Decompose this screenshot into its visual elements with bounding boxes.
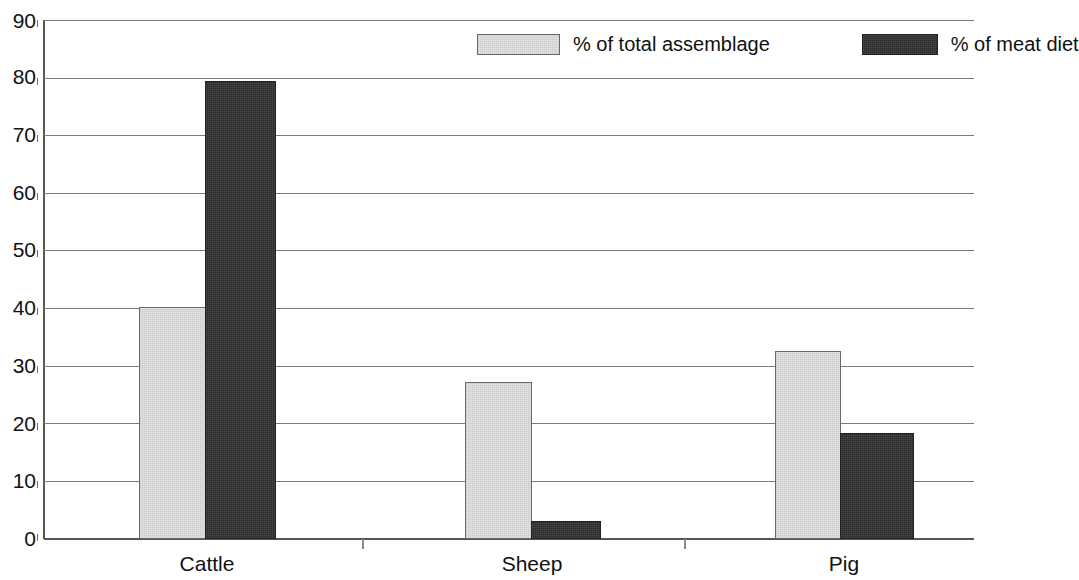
- bar-pig-total-assemblage: [775, 351, 841, 539]
- y-axis-tick-label: 40: [2, 297, 36, 318]
- dark-swatch-icon: [862, 34, 938, 55]
- light-swatch-icon: [477, 34, 560, 55]
- x-axis-separator-tick: [362, 539, 364, 549]
- y-tick-40: [37, 308, 38, 315]
- y-tick-20: [37, 423, 38, 430]
- bar-sheep-meat-diet: [531, 521, 601, 539]
- gridline-90: [44, 20, 974, 21]
- y-axis-labels: 90 80 70 60 50 40 30 20 10 0: [0, 0, 36, 580]
- y-axis-tick-label: 30: [2, 355, 36, 376]
- x-axis-category-label-sheep: Sheep: [472, 553, 592, 575]
- bar-sheep-total-assemblage: [465, 382, 532, 539]
- legend-label-meat-diet: % of meat diet: [951, 34, 1079, 55]
- y-axis-tick-label: 90: [2, 10, 36, 31]
- x-axis-category-label-pig: Pig: [784, 553, 904, 575]
- y-axis-tick-label: 10: [2, 470, 36, 491]
- gridline-80: [44, 78, 974, 79]
- y-tick-30: [37, 366, 38, 373]
- plot-area: [44, 20, 974, 538]
- bar-cattle-meat-diet: [205, 81, 276, 539]
- y-axis-tick-label: 70: [2, 124, 36, 145]
- legend-item-total-assemblage: % of total assemblage: [477, 34, 770, 55]
- y-tick-70: [37, 135, 38, 142]
- y-axis-tick-label: 0: [2, 528, 36, 549]
- bar-cattle-total-assemblage: [139, 307, 206, 539]
- gridline-60: [44, 193, 974, 194]
- y-axis-tick-label: 80: [2, 66, 36, 87]
- x-axis-separator-tick: [684, 539, 686, 549]
- y-tick-90: [37, 20, 38, 27]
- y-tick-60: [37, 193, 38, 200]
- y-tick-80: [37, 78, 38, 85]
- gridline-50: [44, 250, 974, 251]
- bar-pig-meat-diet: [840, 433, 914, 539]
- y-tick-10: [37, 481, 38, 488]
- y-axis-tick-label: 20: [2, 413, 36, 434]
- legend-label-total-assemblage: % of total assemblage: [573, 34, 770, 55]
- y-axis-tick-label: 60: [2, 182, 36, 203]
- y-tick-0: [37, 534, 38, 541]
- y-tick-50: [37, 250, 38, 257]
- y-axis-tick-label: 50: [2, 239, 36, 260]
- legend-item-meat-diet: % of meat diet: [862, 34, 1079, 55]
- legend: % of total assemblage % of meat diet: [477, 34, 1079, 55]
- x-axis-category-label-cattle: Cattle: [147, 553, 267, 575]
- gridline-70: [44, 135, 974, 136]
